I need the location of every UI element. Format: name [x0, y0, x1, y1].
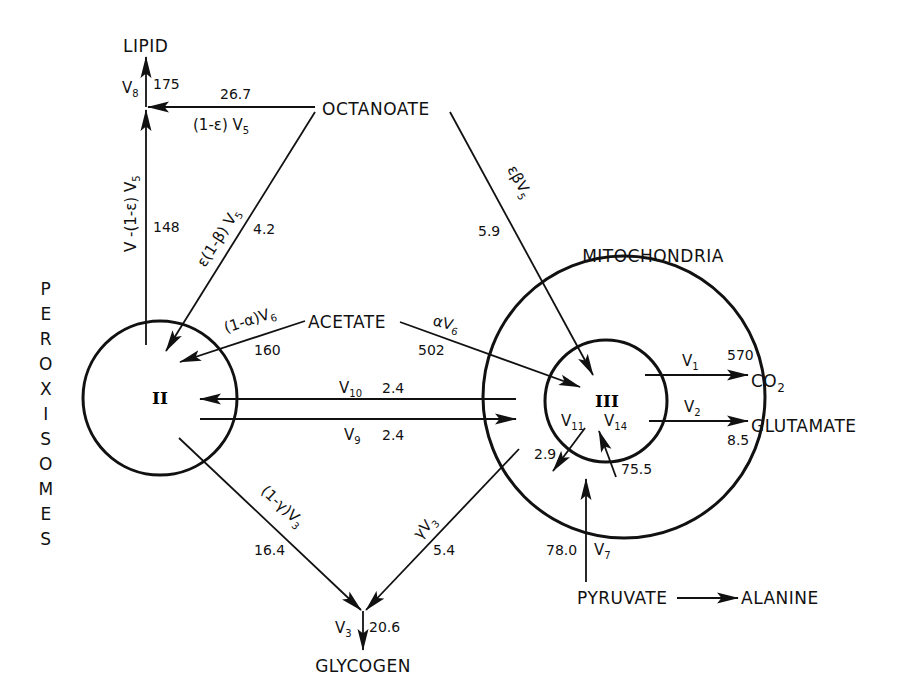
octanoate-to-mitochondria-arrow	[450, 112, 593, 375]
v10-symbol: V10	[339, 379, 362, 399]
v1-symbol: V1	[682, 352, 699, 372]
octanoate-to-lipid-value: 26.7	[220, 86, 251, 102]
peroxisomes-letter: E	[40, 304, 51, 324]
v11-symbol: V11	[561, 412, 584, 432]
peroxisomes-letter: O	[39, 354, 53, 374]
octanoate-to-perox-expr: ε(1-β) V5	[193, 205, 245, 271]
v11-value: 2.9	[534, 446, 556, 462]
peroxisomes-letter: R	[40, 329, 52, 349]
co2-label: CO2	[751, 371, 785, 395]
perox-to-glycogen-arrow	[179, 438, 361, 610]
perox-to-glycogen-expr: (1-γ)V3	[256, 482, 308, 532]
octanoate-to-mito-value: 5.9	[478, 223, 500, 239]
metabolic-flux-diagram: II P E R O X I S O M E S MITOCHONDRIA II…	[0, 0, 902, 697]
v2-value: 8.5	[727, 432, 749, 448]
peroxisomes-letter: M	[38, 479, 53, 499]
acetate-label: ACETATE	[308, 312, 386, 332]
v10-value: 2.4	[382, 380, 404, 396]
peroxisome-compartment: II	[83, 321, 237, 475]
peroxisomes-letter: S	[40, 529, 51, 549]
v3-symbol: V3	[335, 619, 352, 639]
co2-subscript: 2	[777, 381, 785, 395]
peroxisomes-letter: S	[40, 429, 51, 449]
peroxisomes-letter: E	[40, 504, 51, 524]
peroxisomes-vertical-label: P E R O X I S O M E S	[38, 279, 53, 549]
acetate-to-perox-value: 160	[254, 342, 281, 358]
v3-value: 20.6	[369, 619, 400, 635]
v14-value: 75.5	[621, 461, 652, 477]
glutamate-label: GLUTAMATE	[751, 416, 857, 436]
octanoate-to-lipid-expr: (1-ε) V5	[193, 116, 249, 136]
v7-symbol: V7	[594, 541, 611, 561]
co2-text: CO	[751, 371, 777, 391]
alanine-label: ALANINE	[741, 588, 819, 608]
v2-symbol: V2	[684, 398, 701, 418]
perox-to-glycogen-value: 16.4	[254, 542, 285, 558]
peroxisomes-letter: I	[43, 404, 49, 424]
peroxisomes-letter: O	[39, 454, 53, 474]
v8-symbol: V8	[122, 79, 139, 99]
pool-iii-label: III	[595, 391, 619, 411]
pyruvate-label: PYRUVATE	[577, 588, 668, 608]
octanoate-to-mito-expr: εβV5	[502, 162, 536, 202]
v14-arrow	[599, 431, 616, 477]
v8-value: 175	[153, 76, 180, 92]
v9-value: 2.4	[382, 427, 404, 443]
peroxisomes-letter: P	[41, 279, 52, 299]
v9-symbol: V9	[344, 426, 361, 446]
v7-value: 78.0	[546, 542, 577, 558]
v1-value: 570	[727, 347, 754, 363]
pool-ii-label: II	[152, 388, 168, 408]
glycogen-label: GLYCOGEN	[315, 656, 411, 676]
mitochondria-label: MITOCHONDRIA	[582, 246, 724, 266]
peroxisomes-letter: X	[40, 379, 52, 399]
mitochondria-compartment: MITOCHONDRIA III	[483, 246, 765, 538]
octanoate-label: OCTANOATE	[322, 99, 430, 119]
perox-to-lipid-value: 148	[153, 219, 180, 235]
mito-to-glycogen-expr: γV3	[410, 512, 442, 544]
perox-to-lipid-expr: V -(1-ε) V5	[122, 175, 142, 252]
mitochondria-outer-circle	[483, 256, 765, 538]
lipid-label: LIPID	[123, 36, 168, 56]
octanoate-to-perox-value: 4.2	[253, 221, 275, 237]
v14-symbol: V14	[604, 412, 627, 432]
acetate-to-mito-value: 502	[418, 342, 445, 358]
v11-arrow	[553, 428, 585, 471]
mito-to-glycogen-value: 5.4	[433, 542, 455, 558]
mito-to-glycogen-arrow	[366, 449, 519, 610]
